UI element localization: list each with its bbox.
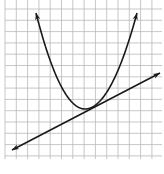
parabola-curve	[36, 13, 137, 109]
figure-caption	[0, 166, 164, 174]
tangent-line	[12, 73, 160, 150]
graph-grid	[5, 0, 162, 159]
graph-figure	[0, 0, 164, 174]
